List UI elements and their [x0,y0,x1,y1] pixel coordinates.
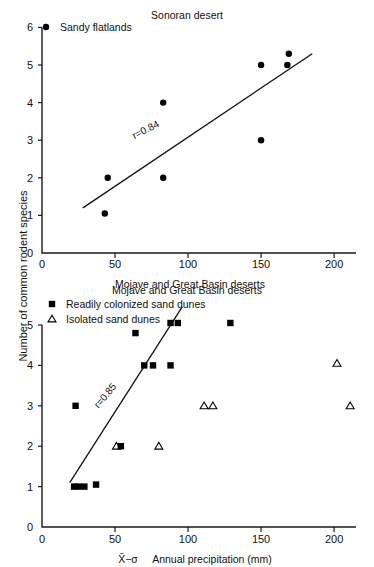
legend-marker-square-icon [49,301,55,307]
y-tick-label-3: 3 [27,134,33,146]
y-tick-label-4: 4 [27,97,33,109]
regression-line [83,54,312,208]
axis-lines [42,325,356,527]
data-point-readily-colonized-sand-dunes-3 [93,481,99,487]
data-point-readily-colonized-sand-dunes-10 [167,320,173,326]
bottom-scatter-plot: 012345050100150200Mojave and Great Basin… [0,277,374,567]
data-point-isolated-sand-dunes-3 [209,402,217,409]
x-tick-label-50: 50 [109,258,121,270]
data-point-sandy-flatlands-0 [105,175,111,181]
x-tick-label-150: 150 [252,533,270,545]
legend-marker-circle-icon [43,24,49,30]
y-axis-label: Number of common rodent species [17,156,29,396]
data-point-isolated-sand-dunes-5 [346,402,354,409]
data-point-readily-colonized-sand-dunes-1 [75,483,81,489]
legend-marker-triangle-icon [48,315,56,322]
x-tick-label-200: 200 [325,258,343,270]
x-tick-label-150: 150 [252,258,270,270]
y-tick-label-5: 5 [27,59,33,71]
legend-label-0: Readily colonized sand dunes [66,298,206,310]
correlation-annotation: r=0.84 [130,118,161,141]
y-tick-label-2: 2 [27,440,33,452]
data-point-isolated-sand-dunes-1 [155,442,163,449]
data-point-sandy-flatlands-1 [102,210,108,216]
x-axis-label-prefix: X̄−σ [118,553,138,565]
x-tick-label-0: 0 [39,258,45,270]
data-point-sandy-flatlands-2 [160,99,166,105]
legend-entry-0: Readily colonized sand dunes [49,298,206,310]
data-point-readily-colonized-sand-dunes-11 [175,320,181,326]
data-point-sandy-flatlands-4 [258,62,264,68]
data-point-readily-colonized-sand-dunes-2 [81,483,87,489]
data-point-readily-colonized-sand-dunes-9 [167,362,173,368]
regression-line [70,307,182,483]
series-sandy-flatlands [102,51,292,217]
y-tick-label-3: 3 [27,400,33,412]
data-point-isolated-sand-dunes-2 [200,402,208,409]
data-point-readily-colonized-sand-dunes-7 [141,362,147,368]
y-tick-label-1: 1 [27,481,33,493]
x-tick-label-0: 0 [39,533,45,545]
data-point-readily-colonized-sand-dunes-6 [132,330,138,336]
data-point-sandy-flatlands-5 [258,137,264,143]
x-tick-label-100: 100 [179,533,197,545]
data-point-sandy-flatlands-7 [284,62,290,68]
legend-entry-1: Isolated sand dunes [48,313,160,325]
y-tick-label-6: 6 [27,21,33,33]
legend-label-1: Isolated sand dunes [66,313,160,325]
top-scatter-plot: 0123456050100150200Sonoran desertr=0.84S… [0,0,374,290]
legend-label-0: Sandy flatlands [60,21,132,33]
x-axis-label: Annual precipitation (mm) [152,553,272,565]
y-tick-label-0: 0 [27,521,33,533]
data-point-readily-colonized-sand-dunes-4 [72,403,78,409]
series-isolated-sand-dunes [112,360,354,450]
x-tick-label-50: 50 [109,533,121,545]
data-point-readily-colonized-sand-dunes-12 [227,320,233,326]
data-point-sandy-flatlands-6 [286,51,292,57]
data-point-readily-colonized-sand-dunes-8 [150,362,156,368]
data-point-isolated-sand-dunes-4 [333,360,341,367]
x-tick-label-100: 100 [179,258,197,270]
panel-title: Mojave and Great Basin deserts [112,284,262,296]
legend-entry-0: Sandy flatlands [43,21,132,33]
x-tick-label-200: 200 [325,533,343,545]
correlation-annotation: r=0.85 [92,381,119,410]
data-point-sandy-flatlands-3 [160,175,166,181]
panel-title: Sonoran desert [151,9,223,21]
axis-lines [42,27,356,253]
